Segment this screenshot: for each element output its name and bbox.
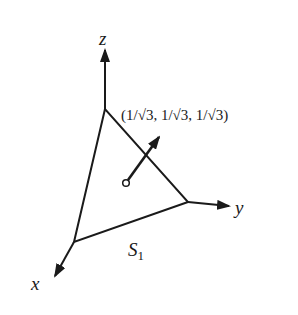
surface-label-name: S	[128, 239, 138, 260]
x-axis-label: x	[31, 274, 39, 293]
surface-normal-diagram: z y x (1/√3, 1/√3, 1/√3) S1	[0, 0, 298, 315]
surface-label-subscript: 1	[138, 248, 145, 263]
x-axis	[55, 242, 74, 276]
z-axis-label: z	[99, 29, 106, 48]
normal-vector-label: (1/√3, 1/√3, 1/√3)	[121, 108, 228, 123]
diagram-canvas	[0, 0, 298, 315]
y-axis	[188, 202, 229, 206]
normal-vector-base-point	[123, 180, 130, 187]
surface-label: S1	[128, 240, 144, 262]
normal-vector-arrow	[128, 137, 159, 180]
y-axis-label: y	[235, 198, 243, 217]
